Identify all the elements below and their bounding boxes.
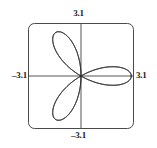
calculator-screen-figure: 3.1 –3.1 –3.1 3.1	[0, 0, 157, 148]
window-label-ymin: –3.1	[0, 130, 157, 140]
window-label-xmax: 3.1	[136, 70, 157, 80]
window-label-ymax: 3.1	[0, 8, 157, 18]
window-label-xmin: –3.1	[1, 70, 27, 80]
